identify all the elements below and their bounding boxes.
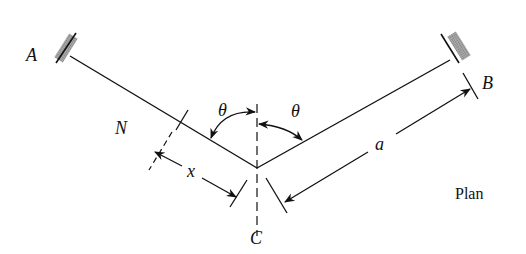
beam-plan-diagram: A B C N θ θ x a Plan [0, 0, 526, 254]
label-a-dimension: a [375, 134, 384, 154]
member-ac [70, 56, 257, 168]
fixed-support-b [441, 31, 471, 63]
dimension-x-right [202, 178, 236, 197]
member-cb [257, 60, 450, 168]
label-a-support: A [25, 45, 38, 65]
dimension-a-lower [285, 152, 368, 202]
tick-c-right [266, 178, 287, 213]
dimension-x-left [155, 152, 182, 166]
dimension-a-upper [396, 89, 470, 134]
label-b-support: B [482, 73, 493, 93]
tick-c-left [230, 180, 247, 207]
label-x-dimension: x [186, 161, 195, 181]
section-n-extension [149, 132, 172, 170]
label-theta-right: θ [291, 101, 300, 121]
caption-plan: Plan [455, 185, 483, 202]
tick-b [463, 73, 478, 99]
label-theta-left: θ [218, 100, 227, 120]
label-n-section: N [114, 118, 128, 138]
angle-arc-right [259, 124, 302, 140]
label-c-vertex: C [250, 228, 263, 248]
